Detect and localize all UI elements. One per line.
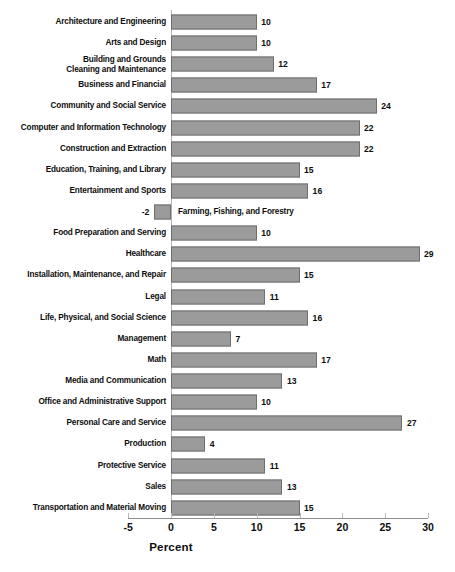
- x-tick: [300, 513, 301, 518]
- bar-row: Building and Grounds Cleaning and Mainte…: [0, 54, 455, 75]
- bar-value-label: 29: [424, 249, 434, 259]
- bar-row: Food Preparation and Serving10: [0, 223, 455, 244]
- bar-value-label: 27: [407, 418, 417, 428]
- category-label: Protective Service: [0, 461, 166, 470]
- bar-value-label: 12: [278, 59, 288, 69]
- category-label: Farming, Fishing, and Forestry: [178, 207, 398, 216]
- bar-value-label: -2: [142, 207, 150, 217]
- bar: [171, 57, 274, 72]
- bar-value-label: 10: [261, 17, 271, 27]
- x-tick: [171, 513, 172, 518]
- bar: [171, 15, 257, 30]
- category-label: Sales: [0, 482, 166, 491]
- bar-value-label: 15: [304, 503, 314, 513]
- x-tick-label: 0: [168, 521, 174, 533]
- bar-value-label: 7: [235, 334, 240, 344]
- x-tick-label: 20: [337, 521, 349, 533]
- bar: [171, 226, 257, 241]
- bar-row: Farming, Fishing, and Forestry-2: [0, 202, 455, 223]
- bar-row: Business and Financial17: [0, 75, 455, 96]
- bar: [171, 310, 308, 325]
- bar-row: Management7: [0, 328, 455, 349]
- bar-value-label: 13: [287, 376, 297, 386]
- bar-value-label: 15: [304, 165, 314, 175]
- category-label: Math: [0, 355, 166, 364]
- x-tick-label: -5: [123, 521, 132, 533]
- x-tick: [342, 513, 343, 518]
- bar: [171, 458, 265, 473]
- bar: [171, 78, 317, 93]
- bar-row: Math17: [0, 349, 455, 370]
- bar-value-label: 22: [364, 123, 374, 133]
- x-tick-label: 30: [422, 521, 434, 533]
- bar-value-label: 11: [270, 292, 279, 302]
- category-label: Business and Financial: [0, 81, 166, 90]
- x-tick-label: 25: [379, 521, 391, 533]
- bar: [171, 247, 420, 262]
- bar: [171, 331, 231, 346]
- category-label: Production: [0, 440, 166, 449]
- bar-row: Community and Social Service24: [0, 96, 455, 117]
- bar-row: Transportation and Material Moving15: [0, 497, 455, 518]
- bar: [171, 99, 377, 114]
- bar-value-label: 24: [381, 101, 391, 111]
- bar-row: Healthcare29: [0, 244, 455, 265]
- x-tick: [428, 513, 429, 518]
- bar: [171, 183, 308, 198]
- x-tick-label: 15: [294, 521, 306, 533]
- bar-value-label: 4: [210, 439, 215, 449]
- category-label: Food Preparation and Serving: [0, 228, 166, 237]
- bar: [171, 289, 265, 304]
- category-label: Computer and Information Technology: [0, 123, 166, 132]
- bar-row: Legal11: [0, 286, 455, 307]
- bar: [171, 162, 300, 177]
- bar-row: Education, Training, and Library15: [0, 159, 455, 180]
- bar-row: Sales13: [0, 476, 455, 497]
- category-label: Management: [0, 334, 166, 343]
- x-axis-line: [128, 518, 428, 519]
- category-label: Office and Administrative Support: [0, 397, 166, 406]
- category-label: Building and Grounds Cleaning and Mainte…: [0, 55, 166, 74]
- bar-value-label: 17: [321, 80, 331, 90]
- category-label: Entertainment and Sports: [0, 186, 166, 195]
- category-label: Life, Physical, and Social Science: [0, 313, 166, 322]
- bar-row: Installation, Maintenance, and Repair15: [0, 265, 455, 286]
- category-label: Transportation and Material Moving: [0, 503, 166, 512]
- category-label: Arts and Design: [0, 38, 166, 47]
- bar-row: Arts and Design10: [0, 33, 455, 54]
- category-label: Construction and Extraction: [0, 144, 166, 153]
- bar-row: Production4: [0, 434, 455, 455]
- bar: [171, 416, 402, 431]
- bar: [154, 205, 171, 220]
- bar-row: Architecture and Engineering10: [0, 12, 455, 33]
- bar: [171, 395, 257, 410]
- bar: [171, 141, 360, 156]
- category-label: Education, Training, and Library: [0, 165, 166, 174]
- bar: [171, 268, 300, 283]
- x-tick: [257, 513, 258, 518]
- x-axis-title: Percent: [149, 541, 193, 553]
- bar-value-label: 10: [261, 397, 271, 407]
- bar-value-label: 10: [261, 228, 271, 238]
- category-label: Healthcare: [0, 250, 166, 259]
- x-tick: [214, 513, 215, 518]
- bar-row: Media and Communication13: [0, 371, 455, 392]
- bar-value-label: 11: [270, 461, 279, 471]
- bar-value-label: 16: [313, 186, 323, 196]
- bar: [171, 352, 317, 367]
- bar-row: Computer and Information Technology22: [0, 117, 455, 138]
- bar-value-label: 10: [261, 38, 271, 48]
- bar: [171, 479, 282, 494]
- bar-row: Life, Physical, and Social Science16: [0, 307, 455, 328]
- bar: [171, 437, 205, 452]
- x-tick: [128, 513, 129, 518]
- bar-chart: Architecture and Engineering10Arts and D…: [0, 0, 455, 572]
- bar-value-label: 15: [304, 270, 314, 280]
- bar-row: Construction and Extraction22: [0, 138, 455, 159]
- x-tick-label: 5: [211, 521, 217, 533]
- bar-row: Protective Service11: [0, 455, 455, 476]
- category-label: Installation, Maintenance, and Repair: [0, 271, 166, 280]
- category-label: Legal: [0, 292, 166, 301]
- category-label: Personal Care and Service: [0, 419, 166, 428]
- plot-area: Architecture and Engineering10Arts and D…: [0, 0, 455, 572]
